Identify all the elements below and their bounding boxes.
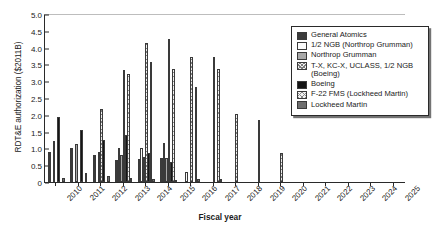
- y-axis-tick: 5.0: [31, 11, 45, 20]
- legend-swatch-icon: [297, 81, 307, 89]
- bar-2010-series-6: [62, 178, 65, 182]
- y-axis-tick: 2.5: [31, 95, 45, 104]
- legend-item: General Atomics: [297, 31, 424, 40]
- bar-2019-series-3: [258, 120, 261, 182]
- bar-2010-series-4: [57, 117, 60, 182]
- x-axis-tick-mark: [258, 182, 259, 186]
- bar-2016-series-3: [190, 57, 193, 182]
- legend-swatch-icon: [297, 42, 307, 50]
- y-axis-tick: 1.5: [31, 128, 45, 137]
- bar-2014-series-0: [138, 159, 141, 182]
- x-axis-tick-label: 2024: [380, 184, 399, 203]
- legend-label: Northrop Grumman: [311, 51, 376, 60]
- bar-2011-series-6: [85, 173, 88, 182]
- x-axis-tick-mark: [303, 182, 304, 186]
- x-axis-tick-label: 2022: [335, 184, 354, 203]
- bar-2016-series-1: [185, 172, 188, 182]
- x-axis-tick-label: 2018: [245, 184, 264, 203]
- bar-2010-series-2: [53, 141, 56, 182]
- y-axis-tick: 1.0: [31, 145, 45, 154]
- x-axis-tick-mark: [55, 182, 56, 186]
- x-axis-tick-label: 2020: [290, 184, 309, 203]
- bar-2015-series-5: [172, 69, 175, 182]
- bar-2015-series-1: [163, 143, 166, 182]
- bar-2017-series-5: [217, 69, 220, 182]
- x-axis-tick-label: 2011: [88, 184, 107, 203]
- legend-label: 1/2 NGB (Northrop Grumman): [311, 41, 413, 50]
- x-axis-tick-mark: [213, 182, 214, 186]
- legend-item: F-22 FMS (Lockheed Martin): [297, 90, 424, 99]
- legend-label: T-X, KC-X, UCLASS, 1/2 NGB (Boeing): [311, 62, 424, 79]
- bar-2014-series-2: [143, 157, 146, 182]
- legend-item: Northrop Grumman: [297, 51, 424, 60]
- x-axis-tick-mark: [370, 182, 371, 186]
- y-axis-title: RDT&E authorization ($2011B): [13, 17, 23, 177]
- bar-2013-series-4: [125, 135, 128, 182]
- legend-item: Boeing: [297, 80, 424, 89]
- x-axis-tick-label: 2013: [133, 184, 152, 203]
- legend-swatch-icon: [297, 91, 307, 99]
- bar-2013-series-6: [130, 178, 133, 182]
- x-axis-tick-label: 2021: [313, 184, 332, 203]
- x-axis-title: Fiscal year: [40, 212, 400, 222]
- y-axis-tick: 3.5: [31, 61, 45, 70]
- legend-swatch-icon: [297, 62, 307, 70]
- x-axis-tick-mark: [145, 182, 146, 186]
- x-axis-line: [44, 182, 405, 183]
- legend-label: Boeing: [311, 80, 335, 89]
- bar-2012-series-0: [93, 155, 96, 182]
- bar-2014-series-5: [150, 62, 153, 182]
- bar-2013-series-2: [120, 155, 123, 182]
- bar-2014-series-6: [152, 179, 155, 182]
- bar-2012-series-2: [98, 152, 101, 182]
- bar-2016-series-5: [195, 87, 198, 182]
- bar-2015-series-6: [175, 180, 178, 182]
- bar-2012-series-6: [107, 176, 110, 182]
- bar-2013-series-5: [127, 74, 130, 182]
- y-axis-tick: 4.0: [31, 44, 45, 53]
- bar-2013-series-0: [115, 160, 118, 183]
- bar-2014-series-4: [147, 153, 150, 182]
- bar-2017-series-6: [220, 179, 223, 182]
- bar-2014-series-3: [145, 43, 148, 182]
- x-axis-tick-label: 2014: [155, 184, 174, 203]
- legend-swatch-icon: [297, 32, 307, 40]
- bar-2011-series-0: [70, 148, 73, 182]
- y-axis-tick: 2.0: [31, 111, 45, 120]
- bar-2012-series-3: [100, 109, 103, 182]
- x-axis-tick-mark: [348, 182, 349, 186]
- chart-figure: RDT&E authorization ($2011B) Fiscal year…: [0, 0, 432, 231]
- chart-legend: General Atomics1/2 NGB (Northrop Grumman…: [291, 26, 429, 116]
- x-axis-tick-mark: [190, 182, 191, 186]
- x-axis-tick-mark: [123, 182, 124, 186]
- bar-2010-series-0: [48, 152, 51, 182]
- bar-2015-series-4: [170, 162, 173, 182]
- legend-item: T-X, KC-X, UCLASS, 1/2 NGB (Boeing): [297, 62, 424, 79]
- x-axis-tick-label: 2010: [65, 184, 84, 203]
- x-axis-tick-label: 2025: [403, 184, 422, 203]
- y-axis-tick: 0: [38, 179, 45, 188]
- x-axis-tick-mark: [78, 182, 79, 186]
- bar-2020-series-3: [280, 153, 283, 182]
- x-axis-tick-mark: [325, 182, 326, 186]
- legend-label: Lockheed Martin: [311, 101, 367, 110]
- x-axis-tick-label: 2015: [178, 184, 197, 203]
- y-axis-tick: 4.5: [31, 27, 45, 36]
- bar-2017-series-3: [213, 57, 216, 182]
- legend-item: Lockheed Martin: [297, 101, 424, 110]
- x-axis-tick-mark: [168, 182, 169, 186]
- x-axis-tick-label: 2019: [268, 184, 287, 203]
- bar-2015-series-0: [160, 158, 163, 182]
- bar-2015-series-2: [165, 158, 168, 182]
- x-axis-tick-mark: [280, 182, 281, 186]
- legend-label: F-22 FMS (Lockheed Martin): [311, 90, 408, 99]
- bar-2013-series-3: [123, 70, 126, 182]
- legend-swatch-icon: [297, 52, 307, 60]
- x-axis-tick-label: 2016: [200, 184, 219, 203]
- bar-2012-series-4: [102, 140, 105, 182]
- bar-2018-series-3: [235, 114, 238, 182]
- bar-2011-series-4: [80, 130, 83, 182]
- bar-2015-series-3: [168, 39, 171, 182]
- x-axis-tick-label: 2012: [110, 184, 129, 203]
- bar-2014-series-1: [140, 148, 143, 182]
